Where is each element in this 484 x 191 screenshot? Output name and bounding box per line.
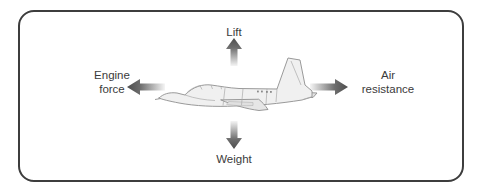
force-diagram: Lift Weight Engineforce: [0, 0, 484, 191]
weight-arrow-down-icon: [226, 121, 242, 149]
air-resistance-label-line2: resistance: [362, 83, 414, 95]
airplane-illustration: [155, 52, 320, 117]
engine-force-label-line1: Engine: [94, 69, 130, 81]
weight-label: Weight: [204, 152, 264, 166]
air-resistance-label: Airresistance: [348, 68, 428, 96]
lift-label: Lift: [204, 25, 264, 39]
engine-force-label-line2: force: [99, 83, 125, 95]
air-resistance-label-line1: Air: [381, 69, 395, 81]
